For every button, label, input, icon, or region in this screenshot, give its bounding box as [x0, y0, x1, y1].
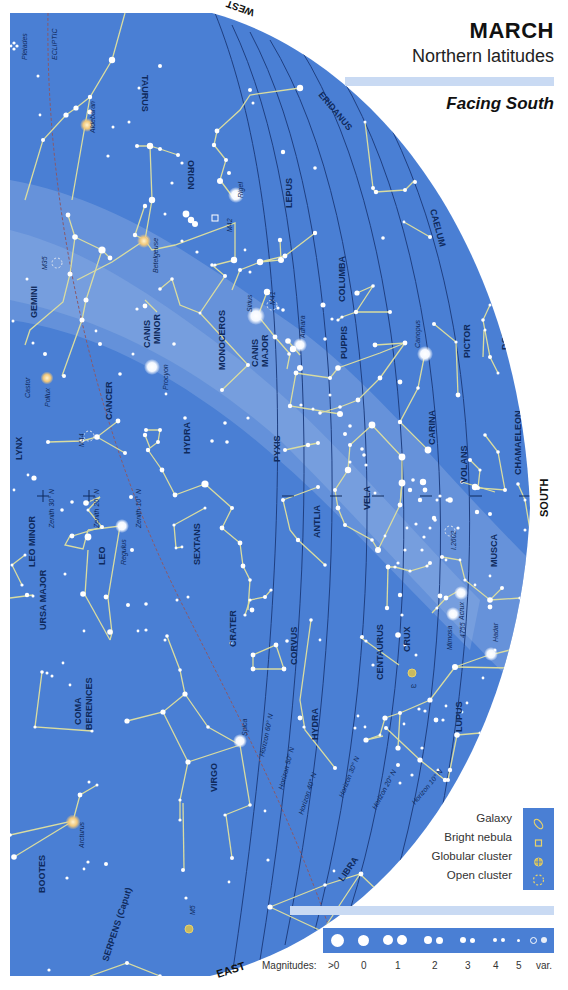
label-zenith-30: Zenith 30° N [48, 488, 55, 529]
magnitude-scale [323, 928, 554, 953]
facing-direction: Facing South [446, 94, 554, 114]
magnitude-labels: Magnitudes: >0 0 1 2 3 4 5 var. [250, 960, 560, 974]
label-crux: CRUX [402, 626, 412, 652]
legend-galaxy: Galaxy [392, 809, 512, 828]
label-ic2602: I.2602 [450, 530, 457, 550]
header-divider [345, 77, 554, 86]
label-pictor: PICTOR [462, 324, 472, 358]
label-spica: Spica [241, 718, 249, 736]
label-pleiades: Pleiades [21, 33, 28, 60]
label-dorado: DORADO [500, 310, 510, 350]
mag-label-2: 2 [432, 960, 438, 971]
mag-dot-3a [460, 937, 466, 943]
mag-label-5: 5 [516, 960, 522, 971]
label-taurus: TAURUS [140, 75, 150, 112]
mag-dot-var-b [541, 937, 547, 943]
label-berenices: BERENICES [84, 677, 94, 730]
label-adhara: Adhara [299, 315, 306, 339]
legend: Galaxy Bright nebula Globular cluster Op… [392, 809, 512, 885]
m5-globular-icon [185, 925, 193, 933]
mag-label-var: var. [536, 960, 552, 971]
mag-label-0: 0 [361, 960, 367, 971]
label-cancer: CANCER [104, 381, 114, 420]
direction-west: WEST [225, 0, 256, 18]
label-canopus: Canopus [414, 319, 422, 348]
label-rigel: Rigel [237, 182, 245, 198]
label-canis-minor-2: MINOR [152, 314, 162, 344]
label-hadar: Hadar [492, 622, 499, 642]
label-chamaeleon: CHAMAELEON [513, 411, 523, 476]
label-4755: 4755 [459, 622, 466, 638]
open-cluster-icon [534, 875, 544, 885]
label-lupus: LUPUS [454, 701, 464, 732]
label-regulus: Regulus [120, 539, 128, 565]
label-lynx: LYNX [14, 437, 24, 460]
label-pyxis: PYXIS [272, 435, 282, 462]
label-m5: M5 [189, 905, 196, 915]
label-omega-centauri: ω [411, 682, 417, 689]
label-canis-major-1: CANIS [250, 339, 260, 367]
label-m41: M41 [269, 291, 276, 305]
label-castor: Castor [24, 377, 31, 398]
label-orion: ORION [186, 160, 196, 190]
mag-dot-2b [436, 937, 443, 944]
label-centaurus: CENTAURUS [375, 624, 385, 680]
galaxy-icon [533, 818, 545, 830]
label-m42: M42 [226, 218, 233, 232]
page-subtitle: Northern latitudes [412, 46, 554, 67]
mag-dot-2a [424, 936, 432, 944]
mag-label-1: 1 [395, 960, 401, 971]
label-hydra-2: HYDRA [310, 707, 320, 740]
mag-dot-brightest [331, 934, 344, 947]
label-bootes: BOOTES [37, 855, 47, 893]
mag-dot-0 [358, 935, 369, 946]
page-title: MARCH [470, 18, 554, 44]
label-zenith-10: Zenith 10° N [135, 488, 142, 529]
label-crater: CRATER [228, 610, 238, 647]
mag-label-3: 3 [465, 960, 471, 971]
globular-cluster-icon [535, 858, 543, 866]
label-hydra: HYDRA [182, 421, 192, 454]
label-ecliptic: ECLIPTIC [51, 28, 58, 60]
label-m35: M35 [41, 256, 48, 270]
mag-dot-1b [397, 935, 407, 945]
legend-symbols [523, 808, 554, 890]
label-canis-minor-1: CANIS [142, 320, 152, 348]
label-sextans: SEXTANS [192, 523, 202, 565]
label-pollux: Pollux [44, 387, 51, 407]
label-ursa-major: URSA MAJOR [38, 569, 48, 630]
legend-open-cluster: Open cluster [392, 866, 512, 885]
mag-label-4: 4 [493, 960, 499, 971]
mag-label-title: Magnitudes: [262, 960, 316, 971]
legend-globular: Globular cluster [392, 847, 512, 866]
label-puppis: PUPPIS [339, 326, 349, 359]
direction-south: SOUTH [538, 478, 550, 517]
label-volans: VOLANS [459, 445, 469, 483]
mag-dot-3b [470, 938, 475, 943]
legend-nebula: Bright nebula [392, 828, 512, 847]
label-lepus: LEPUS [284, 178, 294, 208]
mag-dot-5 [517, 939, 520, 942]
label-antlia: ANTLIA [312, 505, 322, 538]
label-gemini: GEMINI [29, 286, 39, 318]
mag-dot-4b [501, 938, 505, 942]
nebula-icon [536, 840, 542, 846]
label-mimosa: Mimosa [446, 625, 453, 650]
omega-centauri-globular-icon [408, 669, 416, 677]
label-musca: MUSCA [489, 534, 499, 567]
mag-label-brightest: >0 [328, 960, 339, 971]
mag-dot-4a [493, 938, 497, 942]
label-zenith-20: Zenith 20° N [93, 488, 100, 529]
label-corvus: CORVUS [289, 627, 299, 665]
label-betelgeuse: Betelgeuse [152, 238, 160, 273]
mag-dot-1a [383, 935, 393, 945]
label-aldebaran: Aldebaran [89, 101, 96, 134]
label-coma: COMA [73, 697, 83, 725]
label-m44: M44 [78, 433, 85, 447]
label-arcturus: Arcturus [78, 821, 85, 849]
mag-dot-var-a [530, 937, 537, 944]
label-monoceros: MONOCEROS [217, 310, 227, 370]
label-leo: LEO [97, 546, 107, 565]
label-vela: VELA [362, 485, 372, 510]
label-carina: CARINA [427, 410, 437, 445]
